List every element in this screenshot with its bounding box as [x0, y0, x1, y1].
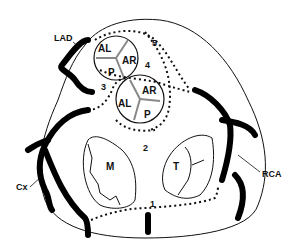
heart-diagram: AL AR P AR AL P M T LAD Cx RCA: [0, 0, 293, 246]
number-2: 2: [143, 143, 148, 153]
mitral-valve: M: [83, 137, 135, 209]
cx-label: Cx: [16, 182, 28, 192]
rca-label: RCA: [262, 169, 282, 179]
number-5: 5: [152, 38, 157, 48]
number-3: 3: [101, 82, 106, 92]
upper-ar-label: AR: [122, 55, 137, 66]
upper-al-label: AL: [98, 43, 111, 54]
number-4: 4: [145, 60, 150, 70]
lower-valve: AR AL P: [116, 75, 164, 123]
upper-valve: AL AR P: [94, 36, 138, 80]
lower-ar-label: AR: [142, 85, 157, 96]
number-1: 1: [150, 199, 155, 209]
lower-al-label: AL: [118, 98, 131, 109]
mitral-label: M: [106, 161, 114, 172]
tricuspid-label: T: [173, 161, 179, 172]
tricuspid-valve: T: [163, 135, 214, 198]
lad-label: LAD: [54, 33, 73, 43]
lower-p-label: P: [144, 109, 151, 120]
cx-artery-branch: [45, 150, 88, 235]
lad-artery: [61, 40, 92, 92]
upper-p-label: P: [108, 67, 115, 78]
